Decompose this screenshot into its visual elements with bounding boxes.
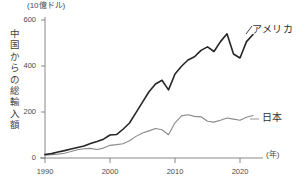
x-tick-label-2020: 2020 <box>227 168 253 176</box>
series-label-america: アメリカ <box>252 24 293 35</box>
x-tick-label-1990: 1990 <box>32 168 58 176</box>
x-tick-label-2000: 2000 <box>97 168 123 176</box>
x-axis-ticks <box>45 158 240 163</box>
y-tick-label-200: 200 <box>16 108 36 116</box>
chart-figure: (10億ドル) 中国からの総輸入額 600 400 200 0 1990 200… <box>0 0 296 192</box>
axis-lines <box>40 17 263 158</box>
y-tick-label-600: 600 <box>16 16 36 24</box>
y-tick-label-400: 400 <box>16 62 36 70</box>
y-axis-ticks <box>41 20 45 158</box>
series-label-japan: 日本 <box>262 112 282 123</box>
y-axis-unit-label: (10億ドル) <box>27 1 65 11</box>
x-axis-unit-label: (年) <box>266 150 279 159</box>
y-tick-label-0: 0 <box>16 154 36 162</box>
series-line-america <box>45 34 253 155</box>
x-tick-label-2010: 2010 <box>162 168 188 176</box>
series-layer <box>45 34 253 155</box>
series-line-japan <box>45 115 253 155</box>
